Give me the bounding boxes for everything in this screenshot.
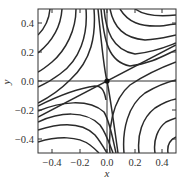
y-tick-label: −0.2 xyxy=(15,105,34,116)
trajectory xyxy=(110,62,176,153)
x-tick-label: −0.4 xyxy=(42,157,62,168)
x-axis-label: x xyxy=(104,167,110,179)
saddle-point xyxy=(104,78,109,83)
trajectory xyxy=(135,9,176,16)
trajectory xyxy=(38,9,76,72)
trajectory xyxy=(38,9,50,35)
y-tick-label: 0.0 xyxy=(21,76,34,87)
trajectory xyxy=(124,80,176,153)
y-tick-label: 0.4 xyxy=(21,18,35,29)
trajectory xyxy=(155,118,176,153)
x-tick-label: 0.4 xyxy=(155,157,169,168)
x-tick-label: −0.2 xyxy=(70,157,89,168)
y-tick-label: 0.2 xyxy=(21,47,34,58)
y-tick-label: −0.4 xyxy=(15,134,35,145)
trajectory xyxy=(139,99,176,153)
trajectory xyxy=(38,114,113,153)
trajectory xyxy=(120,9,176,26)
phase-portrait-plot: −0.4 −0.2 0.0 0.2 0.4 0.4 0.2 0.0 −0.2 −… xyxy=(0,0,186,179)
trajectory xyxy=(38,9,86,87)
y-axis-label: y xyxy=(0,79,12,85)
trajectory xyxy=(38,138,99,153)
x-tick-label: 0.2 xyxy=(128,157,141,168)
